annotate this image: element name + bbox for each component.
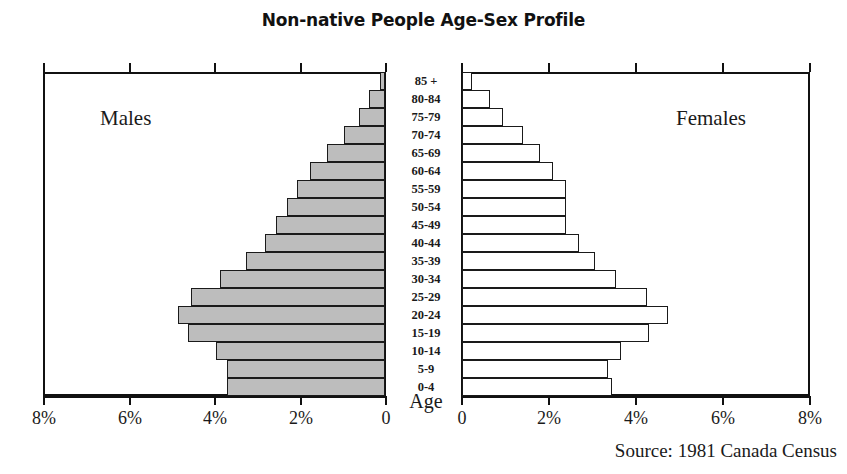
male-bar-row — [43, 252, 385, 270]
male-bar-row — [43, 126, 385, 144]
male-bar — [246, 252, 385, 270]
age-category-label: 80-84 — [392, 90, 460, 108]
males-axis-tick-top — [300, 63, 302, 72]
male-bar-row — [43, 306, 385, 324]
female-bar-row — [462, 306, 810, 324]
male-bar-row — [43, 180, 385, 198]
female-bar — [462, 144, 540, 162]
female-bar — [462, 234, 579, 252]
male-bar — [297, 180, 385, 198]
male-bar-row — [43, 144, 385, 162]
female-bar-row — [462, 360, 810, 378]
males-axis-tick-label: 4% — [185, 408, 245, 429]
female-bar-row — [462, 342, 810, 360]
age-category-label: 55-59 — [392, 180, 460, 198]
female-bar-row — [462, 288, 810, 306]
male-bar — [265, 234, 385, 252]
female-bar-row — [462, 324, 810, 342]
male-bar-row — [43, 198, 385, 216]
females-axis-tick-label: 4% — [606, 408, 666, 429]
chart-title: Non-native People Age-Sex Profile — [0, 10, 847, 30]
female-bar-row — [462, 108, 810, 126]
age-category-labels: 85 +80-8475-7970-7465-6960-6455-5950-544… — [392, 72, 460, 396]
female-bar — [462, 360, 608, 378]
female-bar — [462, 288, 647, 306]
females-axis-tick — [461, 396, 463, 405]
female-bar-row — [462, 216, 810, 234]
male-bar-row — [43, 72, 385, 90]
female-bar-row — [462, 252, 810, 270]
females-axis-tick-top — [461, 63, 463, 72]
male-bar — [344, 126, 385, 144]
male-bar-row — [43, 324, 385, 342]
males-axis-tick — [129, 396, 131, 405]
female-bar-row — [462, 90, 810, 108]
female-bar — [462, 252, 595, 270]
age-category-label: 45-49 — [392, 216, 460, 234]
male-bar — [369, 90, 385, 108]
males-axis-tick-top — [129, 63, 131, 72]
series-label-females: Females — [676, 106, 746, 131]
males-axis-tick-top — [214, 63, 216, 72]
series-label-males: Males — [100, 106, 151, 131]
male-bar-row — [43, 90, 385, 108]
females-axis-tick — [548, 396, 550, 405]
source-note: Source: 1981 Canada Census — [615, 440, 837, 462]
age-category-label: 40-44 — [392, 234, 460, 252]
age-category-label: 85 + — [392, 72, 460, 90]
males-axis-tick-top — [385, 63, 387, 72]
male-bar — [287, 198, 385, 216]
female-bar — [462, 306, 668, 324]
males-axis-tick-label: 0 — [356, 408, 416, 429]
female-bar — [462, 270, 616, 288]
female-bar — [462, 180, 566, 198]
female-bar — [462, 324, 649, 342]
males-bar-group — [43, 72, 385, 396]
females-axis-tick-top — [722, 63, 724, 72]
males-axis-tick-label: 6% — [100, 408, 160, 429]
age-category-label: 10-14 — [392, 342, 460, 360]
male-bar — [359, 108, 386, 126]
female-bar — [462, 108, 503, 126]
age-category-label: 50-54 — [392, 198, 460, 216]
females-axis-tick-label: 0 — [432, 408, 492, 429]
males-axis-tick-label: 2% — [271, 408, 331, 429]
age-category-label: 30-34 — [392, 270, 460, 288]
female-bar — [462, 90, 490, 108]
male-bar-row — [43, 108, 385, 126]
males-axis-tick — [43, 396, 45, 405]
male-bar-row — [43, 270, 385, 288]
females-bar-group — [462, 72, 810, 396]
male-bar-row — [43, 378, 385, 396]
females-axis-tick — [635, 396, 637, 405]
female-bar-row — [462, 72, 810, 90]
male-bar — [227, 360, 385, 378]
male-bar-row — [43, 360, 385, 378]
age-category-label: 75-79 — [392, 108, 460, 126]
female-bar-row — [462, 270, 810, 288]
females-axis-tick-label: 2% — [519, 408, 579, 429]
female-bar-row — [462, 180, 810, 198]
females-axis-tick — [809, 396, 811, 405]
female-bar — [462, 378, 612, 396]
age-category-label: 25-29 — [392, 288, 460, 306]
female-bar-row — [462, 126, 810, 144]
females-axis-tick — [722, 396, 724, 405]
age-category-label: 60-64 — [392, 162, 460, 180]
females-axis-tick-top — [809, 63, 811, 72]
female-bar — [462, 198, 566, 216]
female-bar — [462, 72, 472, 90]
females-axis-tick-top — [548, 63, 550, 72]
age-category-label: 5-9 — [392, 360, 460, 378]
male-bar — [191, 288, 386, 306]
female-bar-row — [462, 198, 810, 216]
male-bar — [220, 270, 385, 288]
male-bar — [227, 378, 385, 396]
male-bar — [178, 306, 385, 324]
male-bar — [188, 324, 385, 342]
female-bar-row — [462, 234, 810, 252]
male-bar — [276, 216, 385, 234]
population-pyramid-figure: Non-native People Age-Sex Profile Males … — [0, 0, 847, 474]
male-bar-row — [43, 234, 385, 252]
male-bar-row — [43, 342, 385, 360]
